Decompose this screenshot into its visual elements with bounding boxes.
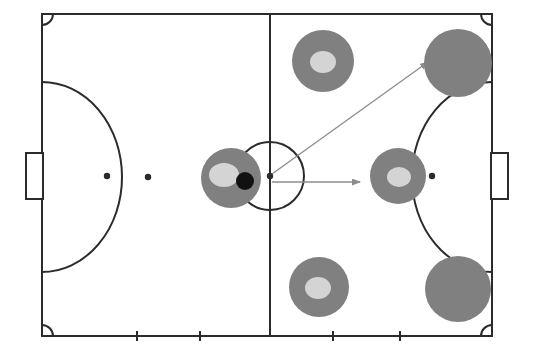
player-bottom-left-attacker-marker [305, 277, 331, 299]
penalty-spot-left [104, 173, 110, 179]
player-bottom-left-attacker [289, 257, 349, 317]
player-top-right-defender [424, 29, 492, 97]
goal-right [491, 153, 508, 199]
second-spot-left [145, 174, 151, 180]
goal-left [26, 153, 43, 199]
pitch-canvas [0, 0, 534, 360]
player-middle-right-attacker [370, 148, 426, 204]
player-top-left-attacker [292, 30, 354, 92]
ball-icon [236, 172, 254, 190]
penalty-spot-right [429, 173, 435, 179]
futsal-tactics-diagram: Futsal tactical diagram [0, 0, 534, 360]
player-bottom-right-defender [425, 256, 491, 322]
player-top-left-attacker-marker [310, 51, 336, 73]
player-with-ball-marker [209, 163, 239, 187]
player-with-ball [201, 148, 261, 208]
player-middle-right-attacker-marker [387, 167, 411, 187]
player-bottom-right-defender-body [425, 256, 491, 322]
player-top-right-defender-body [424, 29, 492, 97]
